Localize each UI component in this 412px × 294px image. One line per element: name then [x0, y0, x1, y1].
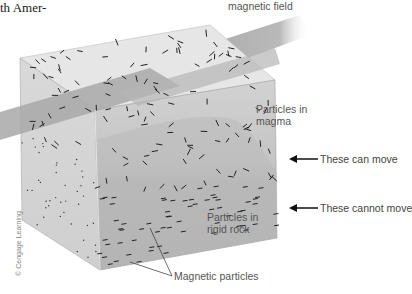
side-particle-dot [83, 195, 84, 196]
rock-particle [139, 229, 144, 230]
particles-in-magma-label: Particles in magma [256, 103, 307, 127]
rock-particle [110, 204, 115, 205]
rock-label-line1: Particles in [207, 211, 258, 223]
rock-particle [108, 264, 113, 265]
cannot-move-arrow [289, 204, 318, 212]
rock-label-line2: rigid rock [207, 223, 258, 235]
side-particle-dot [49, 200, 50, 201]
magnetic-particles-label: Magnetic particles [174, 270, 259, 282]
side-particle-dot [45, 201, 46, 202]
rock-particle [189, 199, 194, 200]
rock-particle [114, 261, 119, 262]
rock-particle [105, 244, 110, 245]
rock-particle [118, 229, 123, 230]
side-particle-dot [38, 152, 39, 153]
side-particle-dot [43, 146, 44, 147]
side-particle-dot [78, 204, 79, 205]
side-particle-dot [95, 245, 96, 246]
side-particle-dot [65, 200, 66, 201]
rock-particle [170, 200, 175, 201]
side-particle-dot [77, 251, 78, 252]
rock-particle [149, 250, 154, 251]
rock-particle [118, 243, 123, 244]
side-particle-dot [74, 164, 75, 165]
rock-particle [100, 198, 105, 199]
side-particle-dot [60, 216, 61, 217]
side-particle-dot [81, 170, 82, 171]
side-particle-dot [93, 223, 94, 224]
side-particle-dot [42, 143, 43, 144]
side-particle-dot [56, 164, 57, 165]
cannot-move-label: These cannot move [320, 202, 412, 214]
rock-particle [205, 200, 210, 201]
side-particle-dot [60, 202, 61, 203]
side-particle-dot [48, 205, 49, 206]
magma-particle [206, 30, 207, 37]
side-particle-dot [38, 180, 39, 181]
side-particle-dot [95, 251, 96, 252]
side-particle-dot [56, 172, 57, 173]
magma-particle [102, 57, 108, 58]
rock-particle [155, 232, 160, 233]
side-particle-dot [87, 225, 88, 226]
side-particle-dot [71, 223, 72, 224]
side-particle-dot [43, 217, 44, 218]
magma-label-line1: Particles in [256, 103, 307, 115]
rock-particle [216, 200, 221, 201]
side-particle-dot [37, 224, 38, 225]
side-particle-dot [63, 212, 64, 213]
side-particle-dot [27, 190, 28, 191]
side-particle-dot [80, 185, 81, 186]
rock-particle [126, 254, 131, 255]
can-move-arrow [289, 155, 318, 163]
rock-particle [149, 247, 154, 248]
side-particle-dot [93, 182, 94, 183]
side-particle-dot [87, 257, 88, 258]
side-particle-dot [35, 146, 36, 147]
magma-particle [30, 67, 36, 68]
rock-particle [97, 253, 102, 254]
side-particle-dot [45, 207, 46, 208]
side-particle-dot [40, 182, 41, 183]
particles-in-rock-label: Particles in rigid rock [207, 211, 258, 235]
side-particle-dot [56, 162, 57, 163]
side-particle-dot [65, 185, 66, 186]
side-particle-dot [55, 197, 56, 198]
rock-particle [114, 220, 119, 221]
can-move-label: These can move [320, 153, 398, 165]
copyright-credit: © Cengage Learning [15, 211, 22, 276]
magma-particle [260, 140, 261, 147]
rock-particle [253, 204, 258, 205]
side-particle-dot [76, 159, 77, 160]
side-particle-dot [21, 142, 22, 143]
side-particle-dot [32, 138, 33, 139]
rock-particle [181, 231, 186, 232]
rock-particle [214, 186, 219, 187]
magma-label-line2: magma [256, 115, 307, 127]
rock-particle [166, 216, 171, 217]
rock-particle [112, 197, 117, 198]
side-particle-dot [82, 176, 83, 177]
side-particle-dot [31, 190, 32, 191]
side-particle-dot [83, 240, 84, 241]
rock-particle [103, 197, 108, 198]
side-particle-dot [77, 191, 78, 192]
rock-particle [137, 262, 142, 263]
